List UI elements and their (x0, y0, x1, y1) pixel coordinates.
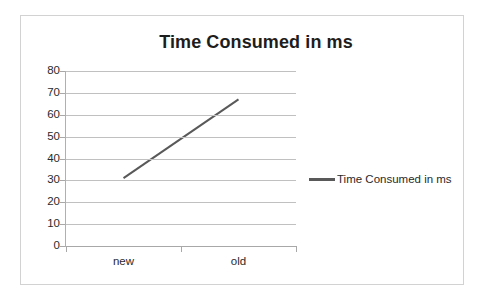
y-axis-tick (60, 93, 65, 94)
x-axis-tick (181, 246, 182, 252)
x-axis-label: new (66, 256, 181, 268)
legend-swatch-icon (309, 178, 335, 181)
chart-container: Time Consumed in ms 01020304050607080 ne… (20, 15, 464, 285)
y-axis-label: 10 (34, 218, 60, 230)
y-axis-label: 0 (34, 240, 60, 252)
chart-title: Time Consumed in ms (21, 32, 463, 53)
x-axis-tick-labels: newold (66, 256, 296, 272)
gridline (66, 180, 296, 181)
gridline (66, 224, 296, 225)
legend-label: Time Consumed in ms (337, 174, 452, 186)
series-line (124, 99, 239, 178)
gridline (66, 93, 296, 94)
gridline (66, 137, 296, 138)
y-axis-label: 60 (34, 109, 60, 121)
gridline (66, 159, 296, 160)
y-axis-tick (60, 159, 65, 160)
y-axis-label: 40 (34, 153, 60, 165)
y-axis-label: 70 (34, 87, 60, 99)
y-axis-label: 80 (34, 65, 60, 77)
y-axis-tick (60, 246, 65, 247)
y-axis-tick (60, 71, 65, 72)
y-axis-tick-labels: 01020304050607080 (28, 71, 60, 246)
gridline (66, 202, 296, 203)
gridline (66, 71, 296, 72)
y-axis-tick (60, 180, 65, 181)
y-axis-label: 20 (34, 196, 60, 208)
gridline (66, 115, 296, 116)
x-axis-tick (66, 246, 67, 252)
y-axis-tick (60, 115, 65, 116)
y-axis-label: 30 (34, 174, 60, 186)
x-axis-label: old (181, 256, 296, 268)
y-axis-tick (60, 202, 65, 203)
chart-legend: Time Consumed in ms (309, 174, 452, 186)
plot-area (66, 71, 296, 246)
y-axis-tick (60, 224, 65, 225)
y-axis-label: 50 (34, 131, 60, 143)
y-axis-tick (60, 137, 65, 138)
x-axis-tick (296, 246, 297, 252)
